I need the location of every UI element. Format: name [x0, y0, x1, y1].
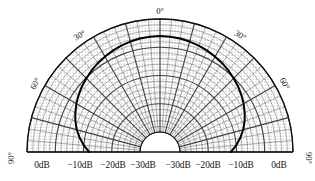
left-db-label-0: 0dB	[34, 160, 50, 170]
right-db-label-1: −20dB	[195, 160, 221, 170]
angle-label-top-0: 0°	[156, 6, 164, 16]
right-db-label-3: 0dB	[271, 160, 287, 170]
radial-axis-labels-left: 0dB−10dB−20dB−30dB	[34, 160, 156, 170]
angle-label-right-90: 90°	[304, 152, 314, 165]
radial-axis-labels-right: −30dB−20dB−10dB0dB	[165, 160, 287, 170]
angle-label-right-60: 60°	[278, 76, 293, 92]
angle-label-right-30: 30°	[233, 28, 249, 43]
angle-label-left-90: 90°	[6, 151, 16, 164]
angle-label-left-30: 30°	[72, 27, 88, 42]
right-db-label-2: −10dB	[228, 160, 254, 170]
left-db-label-1: −10dB	[67, 160, 93, 170]
polar-directivity-plot: 90°60°30°0°30°60°90° 0dB−10dB−20dB−30dB …	[0, 0, 315, 181]
left-db-label-2: −20dB	[100, 160, 126, 170]
right-db-label-0: −30dB	[165, 160, 191, 170]
angle-label-left-60: 60°	[28, 75, 43, 91]
polar-chart-figure: 90°60°30°0°30°60°90° 0dB−10dB−20dB−30dB …	[0, 0, 315, 181]
left-db-label-3: −30dB	[130, 160, 156, 170]
